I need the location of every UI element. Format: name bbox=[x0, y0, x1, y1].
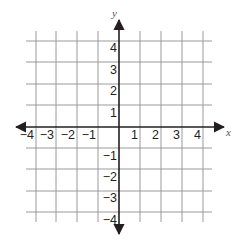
y-tick-label: 4 bbox=[110, 41, 117, 55]
y-tick-label: 3 bbox=[110, 63, 117, 77]
y-tick-label: −3 bbox=[103, 191, 117, 205]
x-tick-label: −4 bbox=[20, 128, 34, 142]
x-tick-label: 4 bbox=[194, 128, 201, 142]
x-tick-label: 2 bbox=[152, 128, 159, 142]
y-tick-label: −2 bbox=[103, 170, 117, 184]
coordinate-plane: x y −4 −3 −2 −1 1 2 3 4 4 3 2 1 −1 −2 −3… bbox=[0, 0, 244, 248]
x-tick-label: −1 bbox=[82, 128, 96, 142]
x-tick-label: −3 bbox=[40, 128, 54, 142]
y-tick-label: 1 bbox=[110, 106, 117, 120]
y-tick-labels: 4 3 2 1 −1 −2 −3 −4 bbox=[103, 41, 117, 227]
y-tick-label: 2 bbox=[110, 84, 117, 98]
x-tick-label: 3 bbox=[173, 128, 180, 142]
x-tick-label: −2 bbox=[61, 128, 75, 142]
y-tick-label: −4 bbox=[103, 213, 117, 227]
x-tick-labels: −4 −3 −2 −1 1 2 3 4 bbox=[20, 128, 201, 142]
y-tick-label: −1 bbox=[103, 149, 117, 163]
x-axis-label: x bbox=[225, 126, 231, 138]
y-axis-label: y bbox=[111, 7, 117, 19]
x-tick-label: 1 bbox=[131, 128, 138, 142]
